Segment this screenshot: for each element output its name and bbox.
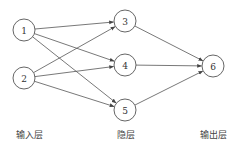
edge-5-to-6 <box>135 71 203 105</box>
node-1: 1 <box>13 19 35 41</box>
node-label: 5 <box>122 106 128 116</box>
node-label: 4 <box>122 61 128 71</box>
edge-2-to-4 <box>35 67 114 77</box>
layer-labels-group: 输入层 隐层 输出层 <box>16 129 227 140</box>
node-label: 2 <box>21 74 27 84</box>
edge-1-to-5 <box>33 37 116 103</box>
edge-2-to-3 <box>34 27 115 73</box>
output-layer-label: 输出层 <box>200 129 227 140</box>
edge-1-to-3 <box>35 22 114 29</box>
node-label: 3 <box>122 17 128 27</box>
node-3: 3 <box>114 10 136 32</box>
node-4: 4 <box>114 54 136 76</box>
edge-2-to-5 <box>35 81 115 106</box>
hidden-layer-label: 隐层 <box>117 129 135 140</box>
input-layer-label: 输入层 <box>16 129 43 140</box>
edge-4-to-6 <box>136 65 202 66</box>
neural-network-diagram: 123456 输入层 隐层 输出层 <box>0 0 239 159</box>
edge-3-to-6 <box>135 26 203 61</box>
node-label: 6 <box>210 62 216 72</box>
node-label: 1 <box>21 26 27 36</box>
node-6: 6 <box>202 55 224 77</box>
node-2: 2 <box>13 67 35 89</box>
node-5: 5 <box>114 99 136 121</box>
